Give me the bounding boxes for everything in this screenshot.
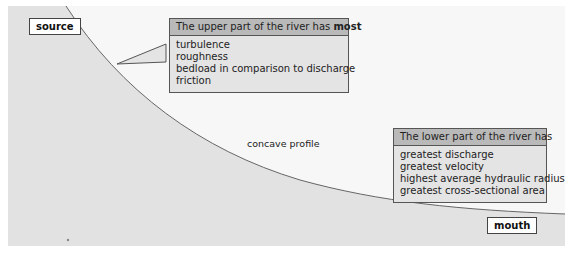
upper-callout-title: The upper part of the river has most <box>170 19 348 36</box>
list-item: highest average hydraulic radius <box>400 173 540 185</box>
lower-callout-list: greatest discharge greatest velocity hig… <box>394 146 546 202</box>
lower-river-callout: The lower part of the river has greatest… <box>393 128 547 203</box>
source-label: source <box>29 18 81 35</box>
river-profile-diagram: source mouth concave profile The upper p… <box>0 0 573 254</box>
list-item: bedload in comparison to discharge <box>176 63 342 75</box>
lower-callout-title: The lower part of the river has <box>394 129 546 146</box>
speck <box>67 239 69 241</box>
mouth-label: mouth <box>487 217 537 234</box>
list-item: turbulence <box>176 39 342 51</box>
list-item: greatest cross-sectional area <box>400 185 540 197</box>
list-item: greatest velocity <box>400 161 540 173</box>
list-item: greatest discharge <box>400 149 540 161</box>
list-item: friction <box>176 75 342 87</box>
upper-callout-list: turbulence roughness bedload in comparis… <box>170 36 348 92</box>
upper-river-callout: The upper part of the river has most tur… <box>169 18 349 93</box>
list-item: roughness <box>176 51 342 63</box>
concave-profile-label: concave profile <box>247 138 320 149</box>
